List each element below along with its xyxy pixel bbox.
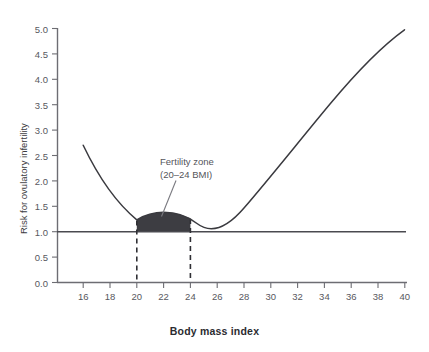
y-axis-ticks <box>52 29 57 283</box>
y-tick-label: 3.5 <box>22 99 48 110</box>
x-tick-label: 38 <box>373 291 384 302</box>
x-tick-label: 22 <box>158 291 169 302</box>
x-tick-label: 34 <box>319 291 330 302</box>
x-tick-label: 16 <box>78 291 89 302</box>
y-tick-label: 0.5 <box>22 252 48 263</box>
risk-curve <box>83 30 404 229</box>
x-tick-label: 20 <box>132 291 143 302</box>
y-tick-label: 4.5 <box>22 48 48 59</box>
y-axis-title: Risk for ovulatory infertility <box>18 123 29 234</box>
fertility-zone-annotation-line1: Fertility zone <box>160 156 214 167</box>
fertility-zone-annotation-line2: (20–24 BMI) <box>160 169 212 180</box>
chart-figure: 5.0 4.5 4.0 3.5 3.0 2.5 2.0 1.5 1.0 0.5 … <box>0 0 429 352</box>
x-tick-label: 28 <box>239 291 250 302</box>
x-tick-label: 32 <box>292 291 303 302</box>
x-tick-label: 18 <box>105 291 116 302</box>
y-tick-label: 4.0 <box>22 74 48 85</box>
x-tick-label: 30 <box>266 291 277 302</box>
x-axis-title: Body mass index <box>0 325 429 337</box>
x-tick-label: 26 <box>212 291 223 302</box>
x-tick-label: 40 <box>400 291 411 302</box>
annotation-leader-line <box>162 181 177 217</box>
y-tick-label: 5.0 <box>22 23 48 34</box>
x-tick-label: 36 <box>346 291 357 302</box>
y-tick-label: 0.0 <box>22 277 48 288</box>
x-tick-label: 24 <box>185 291 196 302</box>
